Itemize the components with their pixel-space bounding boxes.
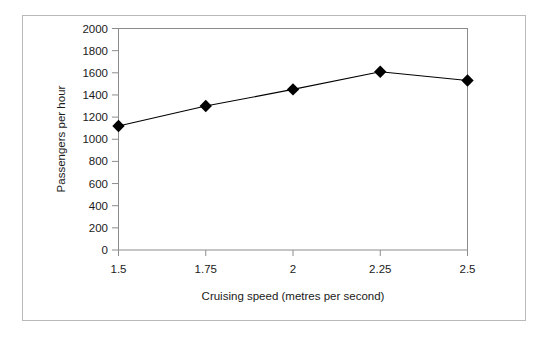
y-tick-label: 1200: [82, 111, 108, 123]
x-axis-tick-labels: 1.5 1.75 2 2.25 2.5: [111, 263, 476, 275]
x-tick-label: 2.5: [460, 263, 476, 275]
data-point-marker: [112, 120, 124, 132]
y-tick-label: 0: [102, 244, 108, 256]
y-tick-label: 1800: [82, 45, 108, 57]
y-axis-title: Passengers per hour: [55, 85, 67, 192]
y-axis-tick-labels: 2000 1800 1600 1400 1200 1000 800 600 40…: [82, 23, 108, 257]
y-tick-label: 1400: [82, 89, 108, 101]
y-tick-label: 200: [89, 222, 108, 234]
data-point-marker: [374, 65, 386, 77]
y-tick-label: 1000: [82, 133, 108, 145]
figure-root: 2000 1800 1600 1400 1200 1000 800 600 40…: [0, 0, 545, 338]
x-axis-ticks: [119, 250, 468, 256]
data-series-line: [119, 72, 468, 126]
plot-frame: [119, 29, 468, 251]
x-tick-label: 1.5: [111, 263, 127, 275]
data-point-marker: [287, 83, 299, 95]
y-tick-label: 2000: [82, 23, 108, 35]
x-tick-label: 2: [290, 263, 296, 275]
x-axis-title: Cruising speed (metres per second): [202, 290, 385, 302]
x-tick-label: 1.75: [195, 263, 217, 275]
line-chart: 2000 1800 1600 1400 1200 1000 800 600 40…: [0, 0, 545, 338]
x-tick-label: 2.25: [369, 263, 391, 275]
data-point-marker: [200, 100, 212, 112]
y-tick-label: 400: [89, 200, 108, 212]
y-tick-label: 800: [89, 155, 108, 167]
y-tick-label: 1600: [82, 67, 108, 79]
y-axis-ticks: [112, 29, 119, 251]
y-tick-label: 600: [89, 178, 108, 190]
data-point-marker: [461, 74, 473, 86]
